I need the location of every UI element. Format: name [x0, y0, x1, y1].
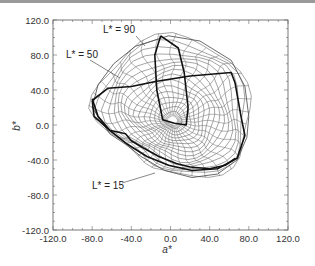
x-tick-label: 120.0 — [276, 233, 300, 244]
annotation-l15: L* = 15 — [92, 180, 124, 191]
annotation-l90: L* = 90 — [103, 24, 135, 35]
y-tick-label: 120.0 — [25, 15, 49, 26]
y-axis-label: b* — [11, 120, 22, 131]
gamut-chart: -120.0-80.0-40.00.040.080.0120.0 120.080… — [0, 0, 315, 266]
gamut-mesh — [88, 33, 251, 178]
x-tick-label: 40.0 — [200, 233, 219, 244]
x-tick-label: 80.0 — [240, 233, 259, 244]
y-tick-label: 0.0 — [36, 120, 49, 131]
y-tick-label: -80.0 — [27, 190, 49, 201]
y-tick-labels: 120.080.040.00.0-40.0-80.0-120.0 — [22, 15, 49, 236]
x-tick-labels: -120.0-80.0-40.00.040.080.0120.0 — [40, 233, 300, 244]
annotation-leader-l15 — [122, 173, 155, 183]
y-tick-label: 80.0 — [31, 50, 50, 61]
y-tick-label: 40.0 — [31, 85, 50, 96]
y-tick-label: -120.0 — [22, 225, 49, 236]
x-tick-label: -40.0 — [121, 233, 143, 244]
x-tick-label: 0.0 — [164, 233, 177, 244]
lightness-contour — [118, 62, 229, 163]
y-tick-label: -40.0 — [27, 155, 49, 166]
lightness-contour — [138, 86, 204, 144]
x-tick-label: -80.0 — [81, 233, 103, 244]
hue-line — [95, 119, 169, 124]
annotation-l50: L* = 50 — [66, 49, 98, 60]
x-axis-label: a* — [162, 244, 173, 255]
